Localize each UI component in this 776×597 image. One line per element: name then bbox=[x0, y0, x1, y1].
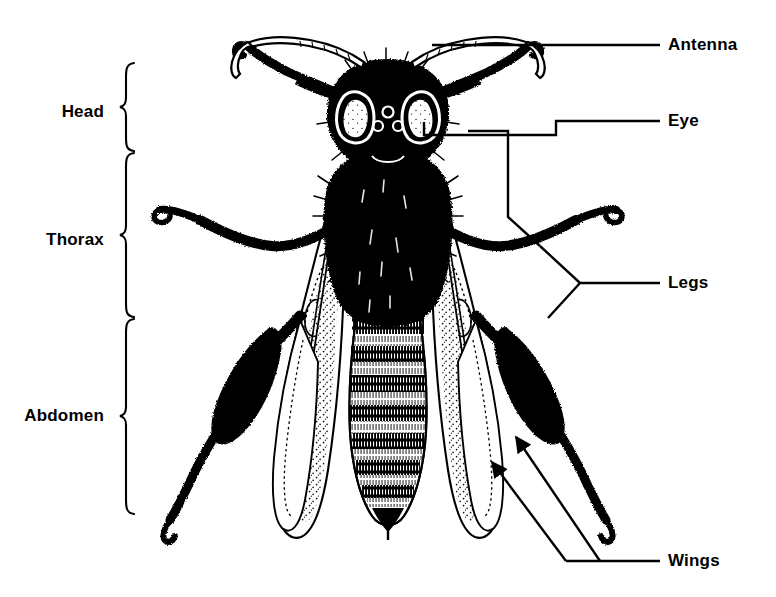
abdomen-stripes bbox=[350, 318, 426, 507]
callout-label-wings: Wings bbox=[668, 551, 720, 571]
compound-eye-left bbox=[337, 92, 374, 143]
bracket-label-head: Head bbox=[0, 102, 104, 122]
bracket-label-abdomen: Abdomen bbox=[0, 406, 104, 426]
bracket-label-thorax: Thorax bbox=[0, 230, 104, 250]
callout-label-legs: Legs bbox=[668, 273, 708, 293]
callout-label-antenna: Antenna bbox=[668, 35, 737, 55]
bee-anatomy-diagram: Head Thorax Abdomen Antenna Eye Legs Win… bbox=[0, 0, 776, 597]
callout-label-eye: Eye bbox=[668, 111, 699, 131]
bee-illustration bbox=[0, 0, 776, 597]
